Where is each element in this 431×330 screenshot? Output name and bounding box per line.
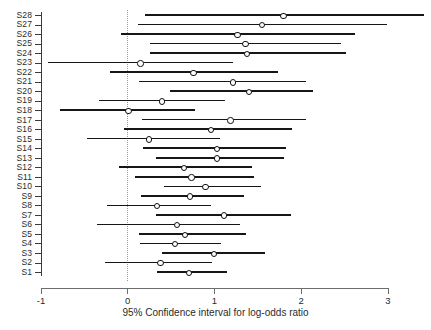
- ci-point-estimate: [202, 184, 208, 190]
- ci-row: [0, 172, 431, 182]
- ci-point-estimate: [221, 212, 227, 218]
- ci-row: [0, 144, 431, 154]
- x-axis-tick-label: 2: [291, 296, 311, 306]
- ci-row: [0, 201, 431, 211]
- ci-row: [0, 67, 431, 77]
- ci-point-estimate: [211, 251, 217, 257]
- x-axis-tick: [301, 288, 302, 294]
- ci-row: [0, 191, 431, 201]
- ci-point-estimate: [182, 232, 188, 238]
- plot-area: S28S27S26S25S24S23S22S21S20S19S18S17S16S…: [0, 0, 431, 330]
- ci-row: [0, 210, 431, 220]
- ci-row: [0, 239, 431, 249]
- ci-row: [0, 10, 431, 20]
- ci-line: [170, 90, 312, 92]
- ci-point-estimate: [146, 136, 152, 142]
- x-axis-tick: [41, 288, 42, 294]
- ci-point-estimate: [214, 155, 220, 161]
- ci-row: [0, 267, 431, 277]
- ci-point-estimate: [172, 241, 178, 247]
- ci-point-estimate: [280, 13, 286, 19]
- ci-point-estimate: [208, 127, 214, 133]
- ci-point-estimate: [137, 60, 143, 66]
- ci-point-estimate: [244, 51, 250, 57]
- ci-point-estimate: [187, 193, 193, 199]
- ci-row: [0, 229, 431, 239]
- ci-row: [0, 163, 431, 173]
- ci-point-estimate: [186, 270, 192, 276]
- ci-row: [0, 105, 431, 115]
- x-axis-tick-label: 3: [378, 296, 398, 306]
- ci-row: [0, 48, 431, 58]
- ci-line: [142, 119, 306, 121]
- ci-row: [0, 86, 431, 96]
- ci-row: [0, 134, 431, 144]
- x-axis-tick: [214, 288, 215, 294]
- x-axis-tick-label: -1: [31, 296, 51, 306]
- ci-point-estimate: [230, 79, 236, 85]
- ci-point-estimate: [246, 89, 252, 95]
- ci-line: [164, 186, 261, 188]
- ci-point-estimate: [242, 41, 248, 47]
- x-axis-tick: [388, 288, 389, 294]
- ci-line: [140, 243, 222, 245]
- ci-line: [87, 138, 220, 140]
- ci-point-estimate: [181, 165, 187, 171]
- ci-row: [0, 220, 431, 230]
- ci-row: [0, 96, 431, 106]
- ci-point-estimate: [259, 22, 265, 28]
- ci-row: [0, 248, 431, 258]
- ci-row: [0, 182, 431, 192]
- ci-point-estimate: [159, 98, 165, 104]
- ci-row: [0, 153, 431, 163]
- ci-point-estimate: [227, 117, 233, 123]
- x-axis-tick: [127, 288, 128, 294]
- ci-point-estimate: [157, 260, 163, 266]
- ci-row: [0, 58, 431, 68]
- ci-row: [0, 29, 431, 39]
- ci-line: [139, 233, 246, 235]
- ci-row: [0, 115, 431, 125]
- ci-line: [139, 81, 306, 83]
- ci-row: [0, 20, 431, 30]
- ci-point-estimate: [125, 108, 131, 114]
- ci-row: [0, 258, 431, 268]
- ci-row: [0, 77, 431, 87]
- ci-point-estimate: [188, 174, 194, 180]
- x-axis-tick-label: 0: [118, 296, 138, 306]
- ci-point-estimate: [190, 70, 196, 76]
- ci-point-estimate: [174, 222, 180, 228]
- x-axis-tick-label: 1: [205, 296, 225, 306]
- ci-point-estimate: [154, 203, 160, 209]
- ci-point-estimate: [214, 146, 220, 152]
- x-axis-title: 95% Confidence interval for log-odds rat…: [0, 308, 431, 318]
- ci-point-estimate: [234, 32, 240, 38]
- ci-line: [97, 224, 239, 226]
- forest-plot-figure: S28S27S26S25S24S23S22S21S20S19S18S17S16S…: [0, 0, 431, 330]
- ci-row: [0, 39, 431, 49]
- ci-row: [0, 124, 431, 134]
